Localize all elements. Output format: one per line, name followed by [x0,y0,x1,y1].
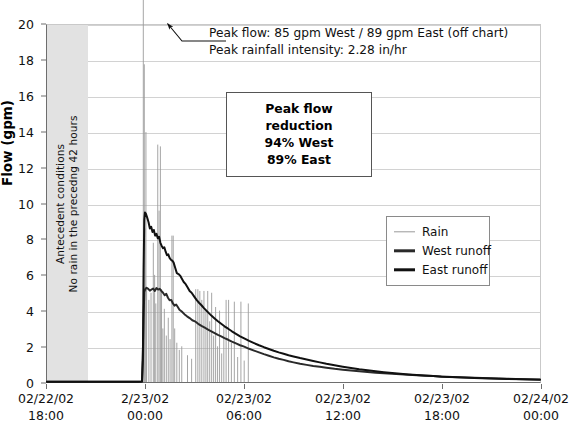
peak-flow-reduction-box: Peak flow reduction 94% West 89% East [226,92,372,177]
x-tick-time: 18:00 [18,407,74,424]
reduction-east: 89% East [231,151,367,168]
x-tick-time: 00:00 [121,407,169,424]
x-tick-mark [343,384,344,389]
x-tick-label: 02/23/0206:00 [216,390,272,424]
y-tick-label: 8 [26,232,34,247]
legend-label: East runoff [422,263,487,277]
x-tick-time: 18:00 [414,407,470,424]
x-tick-label: 2/23/0200:00 [121,390,169,424]
plot-area: Antecedent conditions No rain in the pre… [46,24,541,383]
x-tick-mark [442,384,443,389]
x-tick-time: 06:00 [216,407,272,424]
legend-item[interactable]: West runoff [394,241,483,260]
x-tick-date: 2/23/02 [121,390,169,407]
y-tick-label: 18 [18,52,34,67]
x-tick-date: 02/24/02 [513,390,569,407]
x-tick-mark [244,384,245,389]
callout-line-1: Peak flow: 85 gpm West / 89 gpm East (of… [209,25,508,42]
legend-item[interactable]: East runoff [394,260,483,279]
legend-label: Rain [422,225,448,239]
y-tick-label: 2 [26,340,34,355]
x-axis-ticks: 02/22/0218:002/23/0200:0002/23/0206:0002… [0,384,588,430]
series-west-runoff [47,288,540,382]
x-tick-date: 02/23/02 [315,390,371,407]
hydrograph-chart: Flow (gpm) 20181614121086420 Antecedent … [0,0,588,434]
legend-item[interactable]: Rain [394,222,483,241]
x-tick-mark [46,384,47,389]
y-tick-label: 4 [26,304,34,319]
y-tick-label: 12 [18,160,34,175]
series-layer [47,25,540,382]
y-tick-label: 10 [18,196,34,211]
chart-legend: RainWest runoffEast runoff [386,216,490,286]
reduction-title: Peak flow reduction [231,100,367,134]
x-tick-mark [145,384,146,389]
legend-swatch-icon [394,227,415,237]
y-tick-label: 20 [18,17,34,32]
x-tick-label: 02/24/0200:00 [513,390,569,424]
peak-flow-callout: Peak flow: 85 gpm West / 89 gpm East (of… [209,25,508,58]
x-tick-date: 02/22/02 [18,390,74,407]
y-tick-label: 16 [18,88,34,103]
legend-label: West runoff [422,244,491,258]
x-tick-time: 12:00 [315,407,371,424]
callout-line-2: Peak rainfall intensity: 2.28 in/hr [209,42,508,59]
x-tick-date: 02/23/02 [216,390,272,407]
x-tick-label: 02/22/0218:00 [18,390,74,424]
x-tick-mark [541,384,542,389]
legend-swatch-icon [394,265,415,275]
y-tick-label: 14 [18,124,34,139]
y-axis-title: Flow (gpm) [0,100,15,186]
x-tick-date: 02/23/02 [414,390,470,407]
x-tick-time: 00:00 [513,407,569,424]
reduction-west: 94% West [231,134,367,151]
y-tick-label: 6 [26,268,34,283]
legend-swatch-icon [394,246,415,256]
x-tick-label: 02/23/0218:00 [414,390,470,424]
x-tick-label: 02/23/0212:00 [315,390,371,424]
